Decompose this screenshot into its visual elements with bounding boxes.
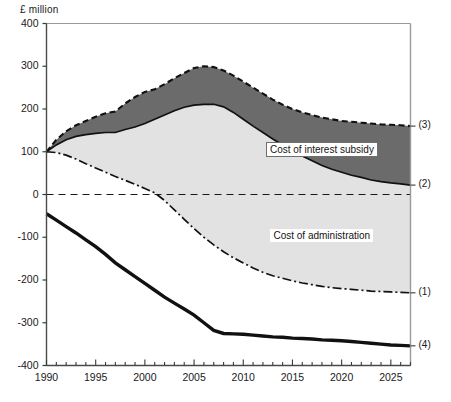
x-axis-tick-label: 2020 (322, 371, 362, 383)
series-label-1: (1) (419, 286, 431, 297)
x-axis-tick-label: 2005 (174, 371, 214, 383)
series-label-2: (2) (419, 178, 431, 189)
y-axis-tick-label: 0 (5, 188, 39, 200)
area-annotation-1: Cost of interest subsidy (266, 142, 378, 157)
y-axis-tick-label: -300 (5, 316, 39, 328)
y-axis-tick-label: -200 (5, 273, 39, 285)
chart-plot-svg (0, 0, 451, 402)
x-axis-tick-label: 2010 (223, 371, 263, 383)
x-axis-tick-label: 2025 (371, 371, 411, 383)
x-axis-tick-label: 1995 (76, 371, 116, 383)
y-axis-tick-label: 300 (5, 59, 39, 71)
x-axis-tick-label: 2015 (272, 371, 312, 383)
y-axis-tick-label: 200 (5, 102, 39, 114)
y-axis-tick-label: 400 (5, 17, 39, 29)
y-axis-tick-label: -100 (5, 230, 39, 242)
chart-container: £ million 4003002001000-100-200-300-4001… (0, 0, 451, 402)
x-axis-tick-label: 1990 (27, 371, 67, 383)
y-axis-tick-label: -400 (5, 359, 39, 371)
series-label-3: (3) (419, 119, 431, 130)
area-annotation-2: Cost of administration (270, 229, 373, 242)
y-axis-tick-label: 100 (5, 145, 39, 157)
series-label-4: (4) (419, 339, 431, 350)
x-axis-tick-label: 2000 (125, 371, 165, 383)
